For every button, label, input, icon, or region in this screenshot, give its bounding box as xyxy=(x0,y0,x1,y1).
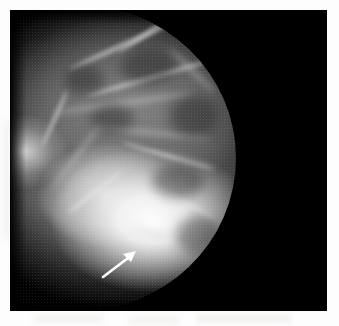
fibroglandular-strand xyxy=(68,21,172,71)
fibroglandular-strand xyxy=(54,90,193,115)
scan-artifact xyxy=(196,315,292,322)
scan-artifact xyxy=(128,318,180,323)
fatty-lucency xyxy=(64,66,104,94)
fatty-lucency xyxy=(120,50,176,84)
scan-artifact xyxy=(4,120,9,240)
mammogram-page xyxy=(0,0,339,326)
fatty-lucency xyxy=(90,104,134,134)
mammogram-film xyxy=(10,10,327,311)
fatty-lucency xyxy=(170,96,218,136)
fatty-lucency xyxy=(152,164,204,198)
fibroglandular-strand xyxy=(149,183,216,221)
scan-artifact xyxy=(34,316,104,322)
fibroglandular-strand xyxy=(86,58,210,98)
fibroglandular-strand xyxy=(92,124,210,141)
fibroglandular-strand xyxy=(48,122,104,191)
fibroglandular-strand xyxy=(41,89,70,147)
chest-wall-edge xyxy=(236,10,327,311)
fibroglandular-strand xyxy=(127,225,217,252)
fibroglandular-strand xyxy=(121,141,214,171)
fibroglandular-strand xyxy=(66,169,124,215)
